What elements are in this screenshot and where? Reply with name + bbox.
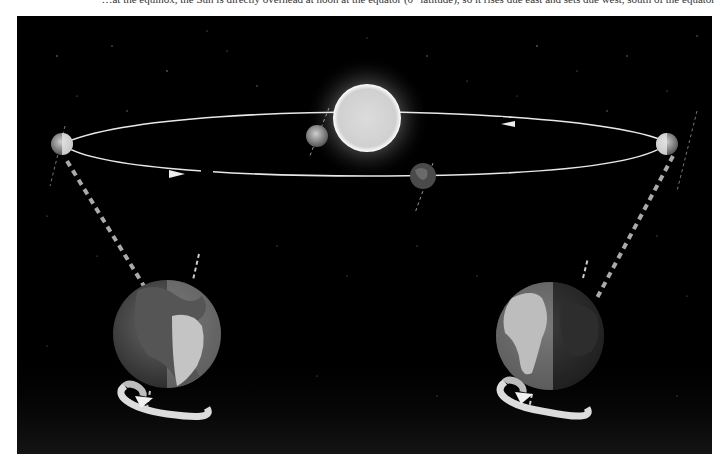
- diagram-panel: [17, 16, 712, 454]
- small-earth-left: [50, 126, 73, 186]
- sun: [333, 84, 401, 152]
- projection-line-left: [67, 161, 147, 291]
- projection-line-right: [597, 156, 673, 298]
- orbit-arrow-right-icon: [169, 170, 185, 178]
- small-earth-front: [410, 163, 436, 213]
- orbit-arrow-left-icon: [501, 121, 515, 127]
- orbit-diagram: [17, 16, 712, 454]
- figure-caption: …at the equinox, the Sun is directly ove…: [0, 0, 725, 5]
